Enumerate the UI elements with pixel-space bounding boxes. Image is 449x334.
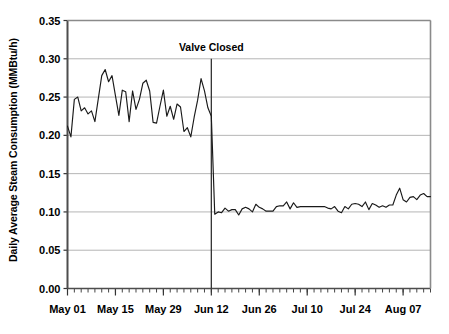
y-tick-label: 0.15 [39,168,60,180]
series-line-daily-average-steam-consumption [68,70,431,215]
annotation-label: Valve Closed [179,41,244,53]
data-series-group [68,70,431,215]
y-tick-label: 0.35 [39,15,60,27]
x-tick-label: Jun 26 [242,303,277,315]
x-tick-labels-group: May 01May 15May 29Jun 12Jun 26Jul 10Jul … [49,303,421,315]
x-tick-label: Aug 07 [385,303,422,315]
x-tick-label: Jul 10 [292,303,323,315]
y-tick-label: 0.30 [39,53,60,65]
y-tick-label: 0.25 [39,91,60,103]
y-tick-label: 0.10 [39,206,60,218]
gridlines-group [68,21,431,251]
y-tick-label: 0.05 [39,244,60,256]
plot-area-wrapper: 0.000.050.100.150.200.250.300.35 May 01M… [0,0,449,334]
annotations-group: Valve Closed [179,41,244,289]
y-tick-label: 0.20 [39,129,60,141]
axis-frame-group [68,21,431,289]
x-tick-label: May 29 [145,303,182,315]
x-tick-label: Jun 12 [194,303,229,315]
line-chart-svg: 0.000.050.100.150.200.250.300.35 May 01M… [0,0,449,334]
x-major-ticks-group [68,289,404,296]
y-tick-label: 0.00 [39,283,60,295]
x-tick-label: May 15 [97,303,134,315]
x-tick-label: May 01 [49,303,86,315]
x-tick-label: Jul 24 [340,303,372,315]
chart-figure: Daily Average Steam Consumption (MMBtu/h… [0,0,449,334]
y-tick-labels-group: 0.000.050.100.150.200.250.300.35 [39,15,60,295]
